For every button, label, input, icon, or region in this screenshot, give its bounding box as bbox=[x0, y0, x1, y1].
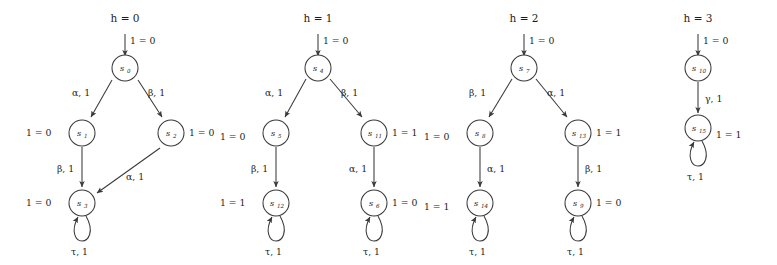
node-s14-label: s bbox=[474, 198, 478, 208]
edge-label-s4-s5: α, 1 bbox=[265, 87, 283, 98]
node-s14[interactable] bbox=[467, 190, 493, 216]
node-s5-label: s bbox=[271, 128, 275, 138]
node-s8-sub: 8 bbox=[482, 133, 486, 139]
side-label-s11: 1 = 1 bbox=[392, 127, 418, 138]
node-s8-label: s bbox=[475, 128, 479, 138]
cluster-h3-title: h = 3 bbox=[684, 12, 713, 24]
node-s5[interactable] bbox=[263, 120, 289, 146]
side-label-s2: 1 = 0 bbox=[189, 127, 215, 138]
self-loop-label-s9: τ, 1 bbox=[567, 246, 584, 257]
node-s11-sub: 11 bbox=[375, 133, 382, 139]
edge-label-s7-s13: α, 1 bbox=[547, 87, 565, 98]
node-s3[interactable] bbox=[69, 190, 95, 216]
edge-label-s13-s9: β, 1 bbox=[585, 163, 602, 174]
cluster-h0: h = 0 1 = 0 α, 1 β, 1 β, 1 α, 1 s 0 s 1 … bbox=[26, 12, 215, 257]
node-s6[interactable] bbox=[361, 190, 387, 216]
side-label-s12: 1 = 1 bbox=[220, 197, 246, 208]
side-label-s3: 1 = 0 bbox=[26, 197, 52, 208]
node-s1[interactable] bbox=[69, 120, 95, 146]
node-s3-sub: 3 bbox=[84, 203, 88, 209]
edge-label-s8-s14: α, 1 bbox=[487, 163, 505, 174]
edge-label-s5-s12: β, 1 bbox=[251, 163, 268, 174]
cluster-h2-title: h = 2 bbox=[510, 12, 539, 24]
side-label-s8: 1 = 0 bbox=[424, 131, 450, 142]
entry-label-s0: 1 = 0 bbox=[130, 35, 156, 46]
side-label-s9: 1 = 0 bbox=[596, 197, 622, 208]
side-label-s5: 1 = 0 bbox=[220, 131, 246, 142]
node-s3-label: s bbox=[77, 198, 81, 208]
edge-s0-s1 bbox=[91, 80, 112, 117]
node-s12[interactable] bbox=[263, 190, 289, 216]
node-s13-sub: 13 bbox=[579, 133, 587, 139]
edge-label-s7-s8: β, 1 bbox=[469, 87, 486, 98]
self-loop-s3 bbox=[74, 216, 90, 241]
self-loop-label-s12: τ, 1 bbox=[265, 246, 282, 257]
cluster-h1-title: h = 1 bbox=[304, 12, 333, 24]
self-loop-label-s14: τ, 1 bbox=[469, 246, 486, 257]
edge-s7-s13 bbox=[536, 79, 567, 117]
node-s10-label: s bbox=[692, 63, 696, 73]
node-s15-label: s bbox=[692, 123, 696, 133]
node-s9-label: s bbox=[573, 198, 577, 208]
node-s2-sub: 2 bbox=[172, 133, 177, 139]
node-s0[interactable] bbox=[112, 55, 138, 81]
self-loop-label-s15: τ, 1 bbox=[687, 171, 704, 182]
node-s15-sub: 15 bbox=[699, 128, 707, 134]
node-s14-sub: 14 bbox=[481, 203, 489, 209]
side-label-s6: 1 = 0 bbox=[392, 197, 418, 208]
cluster-h1: h = 1 1 = 0 α, 1 β, 1 β, 1 α, 1 s 4 s 5 … bbox=[220, 12, 418, 257]
node-s11[interactable] bbox=[361, 120, 387, 146]
node-s13[interactable] bbox=[565, 120, 591, 146]
node-s10[interactable] bbox=[685, 55, 711, 81]
edge-label-s2-s3: α, 1 bbox=[126, 171, 144, 182]
node-s13-label: s bbox=[572, 128, 576, 138]
cluster-h2: h = 2 1 = 0 β, 1 α, 1 α, 1 β, 1 s 7 s 8 … bbox=[424, 12, 622, 257]
edge-label-s4-s11: β, 1 bbox=[341, 87, 358, 98]
node-s8[interactable] bbox=[467, 120, 493, 146]
self-loop-s9 bbox=[570, 216, 586, 241]
node-s11-label: s bbox=[368, 128, 372, 138]
self-loop-label-s3: τ, 1 bbox=[71, 246, 88, 257]
edge-label-s10-s15: γ, 1 bbox=[705, 93, 722, 104]
edge-label-s11-s6: α, 1 bbox=[349, 163, 367, 174]
cluster-h3: h = 3 1 = 0 γ, 1 s 10 s 15 1 = 1 τ, 1 bbox=[684, 12, 742, 182]
edge-label-s1-s3: β, 1 bbox=[57, 163, 74, 174]
state-diagram-figure: h = 0 1 = 0 α, 1 β, 1 β, 1 α, 1 s 0 s 1 … bbox=[0, 0, 777, 265]
side-label-s15: 1 = 1 bbox=[716, 129, 742, 140]
node-s12-sub: 12 bbox=[277, 203, 285, 209]
edge-label-s0-s2: β, 1 bbox=[148, 87, 165, 98]
side-label-s13: 1 = 1 bbox=[596, 127, 622, 138]
node-s5-sub: 5 bbox=[278, 133, 282, 139]
node-s10-sub: 10 bbox=[699, 68, 707, 74]
node-s4[interactable] bbox=[305, 55, 331, 81]
edge-s0-s2 bbox=[138, 80, 162, 117]
self-loop-s6 bbox=[366, 216, 382, 241]
node-s0-label: s bbox=[120, 63, 124, 73]
node-s2-label: s bbox=[166, 128, 170, 138]
diagram-canvas: h = 0 1 = 0 α, 1 β, 1 β, 1 α, 1 s 0 s 1 … bbox=[0, 0, 777, 265]
node-s4-sub: 4 bbox=[319, 68, 324, 74]
side-label-s14: 1 = 1 bbox=[424, 201, 450, 212]
node-s2[interactable] bbox=[158, 120, 184, 146]
node-s4-label: s bbox=[313, 63, 317, 73]
node-s9-sub: 9 bbox=[580, 203, 584, 209]
edge-s4-s11 bbox=[330, 79, 362, 117]
self-loop-label-s6: τ, 1 bbox=[363, 246, 380, 257]
edge-s4-s5 bbox=[285, 79, 306, 117]
node-s6-sub: 6 bbox=[376, 203, 380, 209]
self-loop-s12 bbox=[268, 216, 284, 241]
node-s7[interactable] bbox=[511, 55, 537, 81]
edge-label-s0-s1: α, 1 bbox=[72, 87, 90, 98]
node-s7-sub: 7 bbox=[526, 68, 530, 74]
node-s12-label: s bbox=[270, 198, 274, 208]
cluster-h0-title: h = 0 bbox=[111, 12, 140, 24]
node-s1-sub: 1 bbox=[84, 133, 88, 139]
node-s9[interactable] bbox=[565, 190, 591, 216]
node-s15[interactable] bbox=[685, 115, 711, 141]
entry-label-s4: 1 = 0 bbox=[323, 35, 349, 46]
entry-label-s7: 1 = 0 bbox=[529, 35, 555, 46]
self-loop-s15 bbox=[690, 141, 706, 166]
node-s0-sub: 0 bbox=[127, 68, 131, 74]
node-s6-label: s bbox=[369, 198, 373, 208]
side-label-s1: 1 = 0 bbox=[26, 127, 52, 138]
